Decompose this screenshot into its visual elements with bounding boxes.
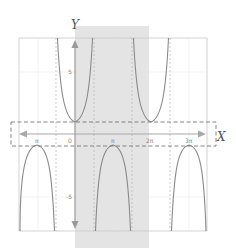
y-tick-label: -5 (66, 193, 72, 200)
y-axis-label: Y (71, 18, 80, 32)
x-tick-label: 2π (146, 137, 154, 144)
sec-function-plot: Y X π 0 π 2π 3π 5 -5 (0, 0, 236, 248)
x-axis-label: X (216, 130, 226, 144)
x-tick-label: 3π (185, 137, 193, 144)
x-tick-label: π (111, 137, 115, 144)
x-tick-label: π (35, 137, 39, 144)
x-tick-label: 0 (68, 137, 72, 144)
y-tick-label: 5 (68, 68, 72, 75)
